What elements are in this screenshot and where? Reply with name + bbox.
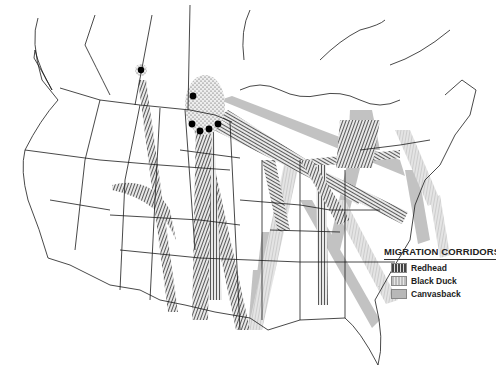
legend-item-redhead: Redhead bbox=[391, 262, 496, 273]
canvasback-swatch-icon bbox=[391, 289, 407, 299]
black-duck-swatch-icon bbox=[391, 276, 407, 286]
migration-map bbox=[0, 0, 496, 369]
legend-item-black-duck: Black Duck bbox=[391, 275, 496, 286]
redhead-swatch-icon bbox=[391, 263, 407, 273]
legend-item-canvasback: Canvasback bbox=[391, 288, 496, 299]
legend-title: MIGRATION CORRIDORS bbox=[384, 246, 496, 260]
legend: MIGRATION CORRIDORS Redhead Black Duck C… bbox=[384, 246, 496, 299]
